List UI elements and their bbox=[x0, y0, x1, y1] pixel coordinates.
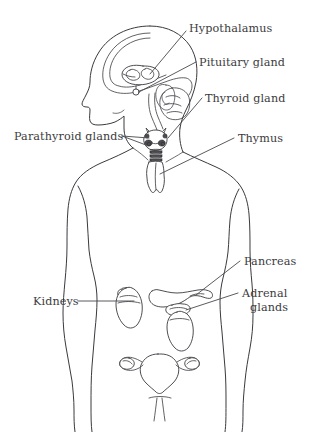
label-adrenal-glands-line1: Adrenal bbox=[241, 287, 288, 300]
label-kidneys: Kidneys bbox=[33, 295, 79, 308]
label-pancreas: Pancreas bbox=[244, 255, 297, 268]
leader-thymus bbox=[160, 138, 234, 174]
label-pituitary-gland: Pituitary gland bbox=[199, 56, 285, 69]
leader-pancreas bbox=[196, 261, 240, 295]
anatomy-illustration: Hypothalamus Pituitary gland Thyroid gla… bbox=[0, 0, 310, 432]
label-adrenal-glands-line2: glands bbox=[250, 301, 288, 314]
label-parathyroid-glands: Parathyroid glands bbox=[14, 130, 124, 143]
anatomy-figure: Hypothalamus Pituitary gland Thyroid gla… bbox=[0, 0, 310, 432]
label-hypothalamus: Hypothalamus bbox=[189, 22, 273, 35]
pituitary-gland-organ bbox=[133, 86, 139, 95]
thyroid-gland-organ bbox=[144, 128, 167, 150]
label-thyroid-gland: Thyroid gland bbox=[205, 92, 285, 105]
trachea bbox=[150, 149, 162, 161]
hypothalamus-organ bbox=[122, 65, 159, 85]
leader-hypothalamus bbox=[150, 31, 186, 74]
label-thymus: Thymus bbox=[238, 132, 283, 145]
thymus-organ bbox=[147, 161, 165, 192]
uterus-ovaries-organ bbox=[120, 354, 200, 421]
